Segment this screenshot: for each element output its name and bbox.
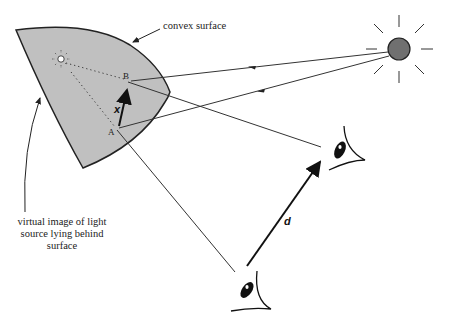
reflected-ray-a bbox=[117, 130, 235, 272]
convex-surface-label: convex surface bbox=[163, 20, 227, 31]
convex-surface bbox=[16, 27, 170, 168]
virtual-image-label-line3: surface bbox=[47, 240, 78, 251]
vector-d-arrow bbox=[247, 162, 320, 266]
point-a-label: A bbox=[108, 127, 115, 137]
virtual-image-label-line1: virtual image of light bbox=[18, 216, 107, 227]
vector-d-label: d bbox=[284, 215, 291, 227]
virtual-image-label-line2: source lying behind bbox=[21, 228, 105, 239]
light-source-icon bbox=[366, 15, 433, 83]
eye-lower-icon bbox=[231, 271, 271, 311]
vector-x-label: x bbox=[113, 103, 121, 115]
virtual-image-pointer bbox=[25, 98, 40, 212]
specular-reflection-diagram: B A x d convex su bbox=[0, 0, 449, 322]
eye-upper-icon bbox=[329, 126, 365, 170]
point-b-label: B bbox=[123, 71, 129, 81]
convex-surface-pointer bbox=[133, 29, 160, 42]
